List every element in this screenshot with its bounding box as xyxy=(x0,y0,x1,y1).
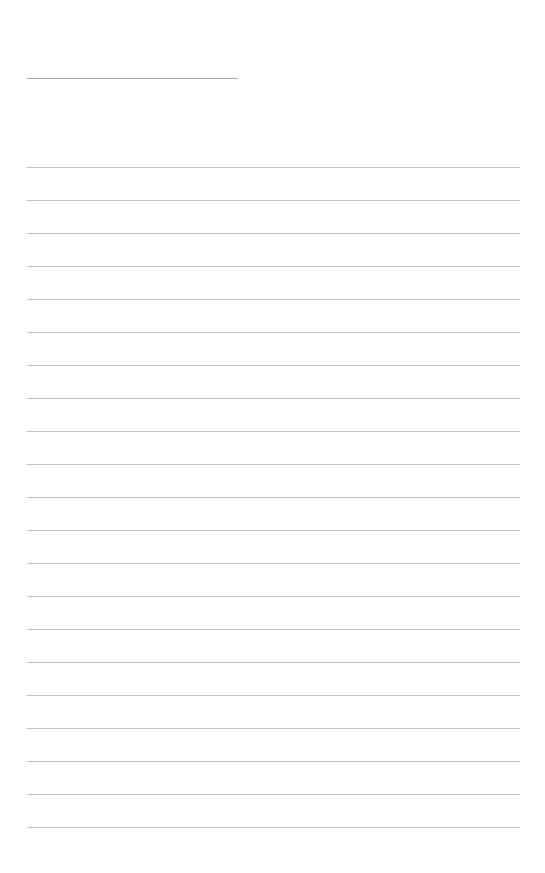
ruled-line xyxy=(27,827,520,828)
ruled-line xyxy=(27,563,520,564)
ruled-line xyxy=(27,596,520,597)
ruled-line xyxy=(27,530,520,531)
ruled-line xyxy=(27,497,520,498)
ruled-line xyxy=(27,695,520,696)
ruled-line xyxy=(27,794,520,795)
lined-paper-page xyxy=(0,0,545,873)
ruled-line xyxy=(27,200,520,201)
ruled-line xyxy=(27,398,520,399)
ruled-line xyxy=(27,464,520,465)
header-title-line xyxy=(27,78,238,79)
ruled-line xyxy=(27,332,520,333)
ruled-line xyxy=(27,761,520,762)
ruled-line xyxy=(27,662,520,663)
ruled-line xyxy=(27,266,520,267)
ruled-line xyxy=(27,167,520,168)
ruled-line xyxy=(27,233,520,234)
ruled-line xyxy=(27,728,520,729)
ruled-line xyxy=(27,629,520,630)
ruled-line xyxy=(27,431,520,432)
ruled-line xyxy=(27,299,520,300)
ruled-line xyxy=(27,365,520,366)
